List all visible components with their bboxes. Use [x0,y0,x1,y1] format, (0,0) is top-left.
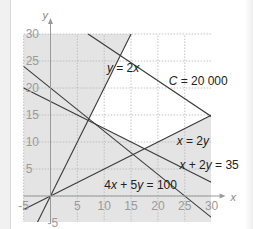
chart: -55101520253030252015105-5xyy = 2xC = 20… [0,0,253,229]
y-tick-label: 15 [26,108,40,122]
y-axis-label: y [42,9,50,21]
x-tick-label: 30 [205,199,219,213]
x-axis-arrow-icon [220,194,226,199]
x-tick-label: 15 [124,199,138,213]
line-label: y = 2x [106,61,140,75]
line-label: 4x + 5y = 100 [104,178,177,192]
line-label: C = 20 000 [169,74,228,88]
x-tick-label: 10 [98,199,112,213]
x-axis-label: x [230,191,237,203]
y-tick-label: 10 [26,135,40,149]
y-tick-label: -5 [48,216,59,229]
x-tick-label: 5 [74,199,81,213]
y-axis-arrow-icon [48,18,53,24]
x-tick-label: 25 [178,199,192,213]
x-tick-label: 20 [151,199,165,213]
x-tick-label: -5 [18,199,29,213]
y-tick-label: 30 [26,27,40,41]
y-tick-label: 5 [26,162,33,176]
y-tick-label: 25 [26,54,40,68]
y-tick-label: 20 [26,81,40,95]
line-label: x = 2y [176,134,210,148]
line-label: x + 2y = 35 [178,158,239,172]
